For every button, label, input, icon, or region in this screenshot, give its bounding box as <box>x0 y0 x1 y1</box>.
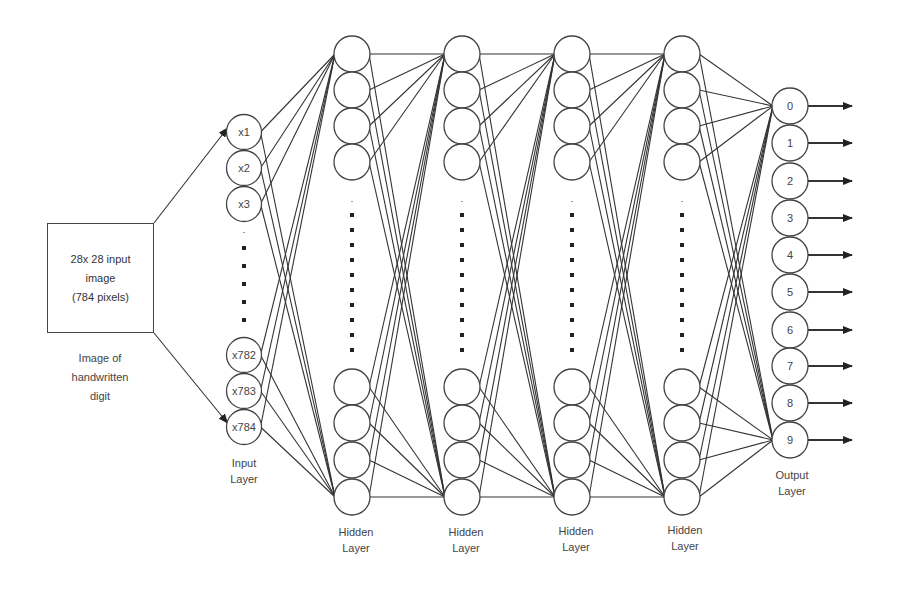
hidden-layer-4-node <box>664 405 700 441</box>
hidden-layer-2-node <box>444 405 480 441</box>
hidden-layer-4-label-line-1: Hidden <box>655 522 715 538</box>
output-node-label: 2 <box>787 175 793 187</box>
output-layer-label-line-2: Layer <box>762 483 822 499</box>
input-image-caption: Image of handwritten digit <box>50 349 150 406</box>
hidden-layer-1-node <box>334 144 370 180</box>
input-layer-label-line-2: Layer <box>214 471 274 487</box>
input-node-label: x1 <box>238 126 250 138</box>
output-node-label: 5 <box>787 286 793 298</box>
hidden-layer-3-node <box>554 442 590 478</box>
output-node-label: 4 <box>787 249 793 261</box>
caption-line-2: handwritten <box>50 368 150 387</box>
hidden-layer-4-node <box>664 369 700 405</box>
hidden-layer-2-node <box>444 369 480 405</box>
hidden-layer-3-node <box>554 72 590 108</box>
output-node-label: 1 <box>787 137 793 149</box>
hidden-layer-1-node <box>334 442 370 478</box>
hidden-layer-3-node <box>554 36 590 72</box>
hidden-layer-3-node <box>554 479 590 515</box>
output-layer-label: Output Layer <box>762 467 822 499</box>
hidden-layer-4-node <box>664 144 700 180</box>
hidden-layer-4-node <box>664 442 700 478</box>
hidden-layer-1-node <box>334 72 370 108</box>
output-node-label: 8 <box>787 397 793 409</box>
input-box-line-2: image <box>71 269 131 288</box>
hidden-layer-4-node <box>664 479 700 515</box>
input-node-label: x782 <box>232 349 256 361</box>
hidden-layer-3-node <box>554 108 590 144</box>
output-node-label: 3 <box>787 212 793 224</box>
hidden-layer-3-node <box>554 369 590 405</box>
caption-line-3: digit <box>50 387 150 406</box>
caption-line-1: Image of <box>50 349 150 368</box>
hidden-layer-3-label-line-1: Hidden <box>546 523 606 539</box>
input-node-label: x2 <box>238 162 250 174</box>
hidden-layer-1-node <box>334 479 370 515</box>
output-layer-label-line-1: Output <box>762 467 822 483</box>
input-node-label: x3 <box>238 198 250 210</box>
hidden-layer-2-label-line-2: Layer <box>436 540 496 556</box>
hidden-layer-4-node <box>664 108 700 144</box>
hidden-layer-1-label-line-1: Hidden <box>326 524 386 540</box>
input-node-label: x784 <box>232 421 256 433</box>
output-node-label: 6 <box>787 324 793 336</box>
hidden-layer-4-node <box>664 36 700 72</box>
hidden-layer-2-node <box>444 479 480 515</box>
input-layer-label-line-1: Input <box>214 455 274 471</box>
hidden-layer-3-node <box>554 405 590 441</box>
hidden-layer-1-node <box>334 405 370 441</box>
hidden-layer-4-label: Hidden Layer <box>655 522 715 554</box>
hidden-layer-3-label-line-2: Layer <box>546 539 606 555</box>
hidden-layer-3-node <box>554 144 590 180</box>
hidden-layer-1-label-line-2: Layer <box>326 540 386 556</box>
input-box-line-3: (784 pixels) <box>71 288 131 307</box>
hidden-layer-1-node <box>334 36 370 72</box>
input-image-box: 28x 28 input image (784 pixels) <box>47 223 154 333</box>
hidden-layer-2-label: Hidden Layer <box>436 524 496 556</box>
hidden-layer-1-label: Hidden Layer <box>326 524 386 556</box>
hidden-layer-2-node <box>444 36 480 72</box>
hidden-layer-1-node <box>334 108 370 144</box>
hidden-layer-2-label-line-1: Hidden <box>436 524 496 540</box>
input-layer-label: Input Layer <box>214 455 274 487</box>
hidden-layer-3-label: Hidden Layer <box>546 523 606 555</box>
input-box-line-1: 28x 28 input <box>71 250 131 269</box>
input-node-label: x783 <box>232 385 256 397</box>
hidden-layer-4-node <box>664 72 700 108</box>
hidden-layer-1-node <box>334 369 370 405</box>
output-node-label: 7 <box>787 360 793 372</box>
hidden-layer-2-node <box>444 144 480 180</box>
hidden-layer-2-node <box>444 108 480 144</box>
hidden-layer-2-node <box>444 442 480 478</box>
output-node-label: 0 <box>787 100 793 112</box>
hidden-layer-4-label-line-2: Layer <box>655 538 715 554</box>
output-node-label: 9 <box>787 434 793 446</box>
hidden-layer-2-node <box>444 72 480 108</box>
